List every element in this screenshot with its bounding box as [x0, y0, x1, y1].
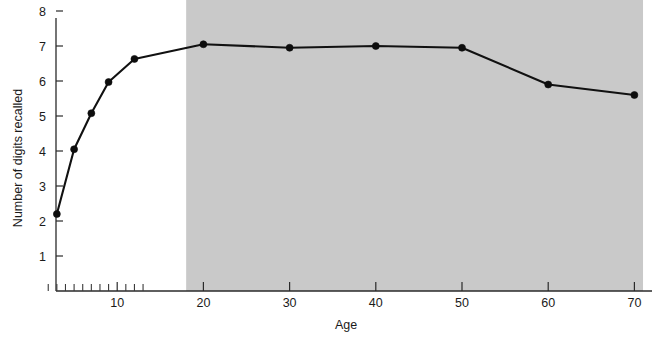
x-axis-title: Age [335, 318, 357, 332]
x-tick-label-70: 70 [627, 296, 641, 310]
y-tick-label-7: 7 [39, 40, 46, 54]
data-point-age-7 [88, 110, 95, 117]
y-tick-label-8: 8 [39, 5, 46, 19]
x-axis-tick-labels: 10203040506070 [110, 296, 641, 310]
y-axis-title: Number of digits recalled [11, 89, 25, 227]
data-point-age-40 [372, 43, 379, 50]
data-point-age-70 [631, 92, 638, 99]
y-tick-label-1: 1 [39, 250, 46, 264]
x-tick-label-20: 20 [196, 296, 210, 310]
y-tick-label-6: 6 [39, 75, 46, 89]
data-point-age-30 [286, 44, 293, 51]
line-chart-canvas: 12345678 10203040506070 Age Number of di… [0, 0, 666, 344]
chart-figure: 12345678 10203040506070 Age Number of di… [0, 0, 666, 344]
data-point-age-20 [200, 41, 207, 48]
data-point-age-5 [71, 146, 78, 153]
y-axis-tick-labels: 12345678 [39, 5, 46, 264]
x-axis-minor-ticks [48, 284, 143, 291]
x-tick-label-50: 50 [455, 296, 469, 310]
data-point-age-9 [105, 79, 112, 86]
data-point-age-50 [459, 44, 466, 51]
x-tick-label-60: 60 [541, 296, 555, 310]
x-tick-label-30: 30 [283, 296, 297, 310]
y-axis-ticks [56, 11, 63, 256]
y-tick-label-4: 4 [39, 145, 46, 159]
y-tick-label-3: 3 [39, 180, 46, 194]
data-point-age-3 [53, 211, 60, 218]
data-point-age-60 [545, 81, 552, 88]
x-tick-label-40: 40 [369, 296, 383, 310]
y-tick-label-5: 5 [39, 110, 46, 124]
adulthood-shaded-band [186, 0, 643, 291]
x-tick-label-10: 10 [110, 296, 124, 310]
data-point-age-12 [131, 55, 138, 62]
y-tick-label-2: 2 [39, 215, 46, 229]
